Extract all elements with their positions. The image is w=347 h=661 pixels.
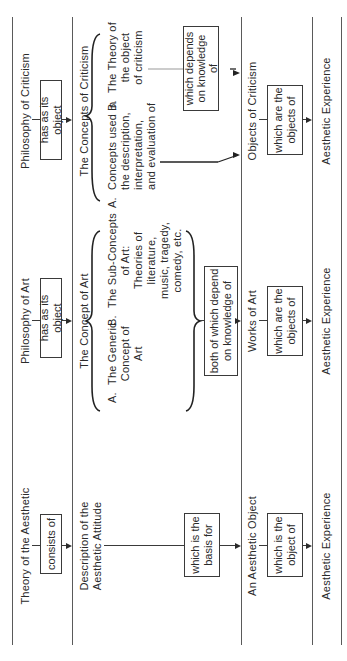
- objects-criticism-label: Objects of Criticism: [246, 36, 259, 186]
- relation-depends-on-knowledge: which dependson knowledgeof: [183, 26, 219, 111]
- relation-text: on knowledge: [195, 32, 207, 105]
- experience-label-3: Aesthetic Experience: [320, 36, 333, 186]
- aesthetics-diagram: Theory of the Aesthetic consists of Desc…: [0, 0, 347, 661]
- connector: [259, 119, 267, 120]
- arrow-down-icon: [306, 117, 312, 123]
- relation-text: which depends: [183, 32, 195, 105]
- relation-objects-of-criticism: which are theobjects of: [267, 85, 303, 155]
- relation-text: objects of: [285, 87, 298, 152]
- relation-text: of: [207, 32, 219, 105]
- relation-text: which are the: [272, 87, 285, 152]
